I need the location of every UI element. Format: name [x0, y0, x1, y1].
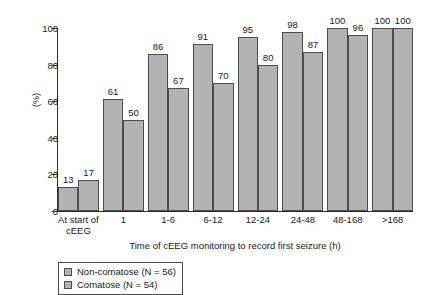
- bar-value-label: 91: [189, 32, 217, 42]
- bar: [282, 32, 302, 211]
- bar: [348, 35, 368, 211]
- bar: [303, 52, 323, 211]
- bar-value-label: 87: [299, 40, 327, 50]
- bar: [58, 187, 78, 211]
- legend-item-non-comatose: Non-comatose (N = 56): [64, 265, 176, 278]
- bar-value-label: 70: [209, 71, 237, 81]
- x-axis-tick-label: >168: [362, 214, 423, 225]
- bar-value-label: 100: [389, 16, 417, 26]
- bar: [193, 44, 213, 211]
- bar: [327, 28, 347, 211]
- legend-item-comatose: Comatose (N = 54): [64, 278, 176, 291]
- bar: [238, 37, 258, 211]
- plot-area: [58, 28, 413, 211]
- bar: [258, 65, 278, 211]
- legend-swatch-icon: [64, 281, 72, 289]
- legend-label: Comatose (N = 54): [77, 279, 158, 290]
- bar-value-label: 95: [234, 25, 262, 35]
- x-axis-line: [57, 211, 413, 212]
- x-axis-title: Time of cEEG monitoring to record first …: [57, 240, 413, 251]
- bar: [372, 28, 392, 211]
- bar: [123, 120, 143, 212]
- bar: [168, 88, 188, 211]
- bar-value-label: 98: [278, 20, 306, 30]
- bar: [213, 83, 233, 211]
- legend-swatch-icon: [64, 268, 72, 276]
- legend: Non-comatose (N = 56) Comatose (N = 54): [58, 262, 183, 295]
- bar-value-label: 61: [99, 87, 127, 97]
- bar: [393, 28, 413, 211]
- bar-value-label: 80: [254, 53, 282, 63]
- bar-value-label: 17: [74, 168, 102, 178]
- legend-label: Non-comatose (N = 56): [77, 266, 176, 277]
- bar-value-label: 86: [144, 42, 172, 52]
- bar-value-label: 67: [164, 76, 192, 86]
- bar-value-label: 50: [119, 108, 147, 118]
